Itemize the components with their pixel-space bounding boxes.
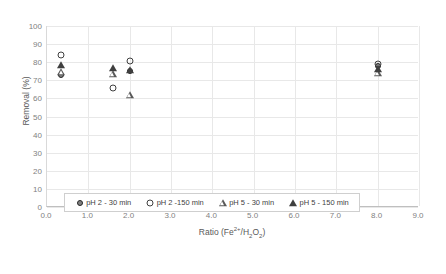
- gridline-vertical: [171, 26, 172, 206]
- y-axis-tick-label: 100: [2, 22, 42, 31]
- data-point-open-triangle: [219, 199, 227, 206]
- gridline-horizontal: [47, 135, 418, 136]
- gridline-vertical: [212, 26, 213, 206]
- x-axis-tick-labels: 0.01.02.03.04.05.06.07.08.09.0: [46, 211, 418, 223]
- gridline-horizontal: [47, 189, 418, 190]
- gridline-vertical: [88, 26, 89, 206]
- scatter-chart: 0102030405060708090100 0.01.02.03.04.05.…: [0, 0, 446, 274]
- gridline-horizontal: [47, 171, 418, 172]
- x-axis-tick-label: 4.0: [196, 211, 226, 220]
- data-point-filled-circle: [77, 200, 83, 206]
- legend-marker-open-triangle: [218, 198, 227, 207]
- y-axis-tick-label: 30: [2, 149, 42, 158]
- y-axis-tick-label: 20: [2, 167, 42, 176]
- x-axis-tick-label: 0.0: [31, 211, 61, 220]
- gridline-horizontal: [47, 26, 418, 27]
- x-axis-tick-label: 1.0: [72, 211, 102, 220]
- data-point-filled-triangle: [57, 61, 65, 68]
- data-point-open-circle: [58, 51, 65, 58]
- gridline-horizontal: [47, 153, 418, 154]
- data-point-open-circle: [147, 199, 154, 206]
- y-axis-tick-label: 90: [2, 40, 42, 49]
- x-axis-tick-label: 9.0: [403, 211, 433, 220]
- x-axis-tick-label: 5.0: [238, 211, 268, 220]
- legend-entry[interactable]: pH 2 - 30 min: [75, 198, 131, 207]
- legend-label: pH 2 -150 min: [157, 198, 204, 207]
- x-axis-title-mid: /H: [241, 227, 250, 237]
- legend-label: pH 5 - 30 min: [229, 198, 274, 207]
- x-axis-tick-label: 8.0: [362, 211, 392, 220]
- legend-label: pH 2 - 30 min: [86, 198, 131, 207]
- data-point-open-triangle: [126, 91, 134, 98]
- gridline-vertical: [336, 26, 337, 206]
- x-axis-tick-label: 2.0: [114, 211, 144, 220]
- gridline-horizontal: [47, 117, 418, 118]
- x-axis-title: Ratio (Fe2+/H2O2): [46, 226, 418, 239]
- data-point-filled-triangle: [289, 199, 297, 206]
- x-axis-tick-label: 6.0: [279, 211, 309, 220]
- data-point-open-circle: [126, 58, 133, 65]
- data-point-open-circle: [110, 84, 117, 91]
- data-point-filled-triangle: [126, 66, 134, 73]
- data-point-filled-triangle: [109, 64, 117, 71]
- gridline-vertical: [295, 26, 296, 206]
- gridline-horizontal: [47, 80, 418, 81]
- chart-legend: pH 2 - 30 minpH 2 -150 minpH 5 - 30 minp…: [64, 193, 360, 212]
- y-axis-tick-label: 10: [2, 185, 42, 194]
- legend-entry[interactable]: pH 5 - 150 min: [289, 198, 349, 207]
- legend-marker-filled-circle: [75, 198, 84, 207]
- gridline-vertical: [254, 26, 255, 206]
- data-point-open-triangle: [109, 70, 117, 77]
- x-axis-title-superscript: 2+: [234, 226, 241, 232]
- plot-area: [46, 26, 418, 207]
- x-axis-title-close: ): [262, 227, 265, 237]
- gridline-horizontal: [47, 44, 418, 45]
- data-point-open-triangle: [57, 68, 65, 75]
- legend-entry[interactable]: pH 2 -150 min: [146, 198, 204, 207]
- gridline-horizontal: [47, 98, 418, 99]
- legend-marker-open-circle: [146, 198, 155, 207]
- x-axis-tick-label: 7.0: [320, 211, 350, 220]
- data-point-filled-triangle: [374, 66, 382, 73]
- legend-entry[interactable]: pH 5 - 30 min: [218, 198, 274, 207]
- y-axis-title: Removal (%): [21, 61, 31, 141]
- legend-marker-filled-triangle: [289, 198, 298, 207]
- gridline-vertical: [130, 26, 131, 206]
- x-axis-tick-label: 3.0: [155, 211, 185, 220]
- legend-label: pH 5 - 150 min: [300, 198, 349, 207]
- gridline-vertical: [419, 26, 420, 206]
- x-axis-title-base: Ratio (Fe: [199, 227, 234, 237]
- gridline-vertical: [378, 26, 379, 206]
- gridline-horizontal: [47, 62, 418, 63]
